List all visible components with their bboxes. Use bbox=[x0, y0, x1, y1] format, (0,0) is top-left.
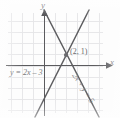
y-axis-label: y bbox=[41, 1, 45, 10]
coordinate-graph-figure: y x (2, 1) y = 2x – 3 2x + y = 5 bbox=[0, 0, 120, 118]
intersection-point-marker bbox=[64, 53, 68, 57]
x-axis-label: x bbox=[110, 58, 114, 67]
intersection-point-label: (2, 1) bbox=[70, 48, 87, 56]
line-y-equals-2x-minus-3 bbox=[35, 10, 89, 117]
line-label-y-equals-2x-minus-3: y = 2x – 3 bbox=[10, 69, 43, 77]
y-axis bbox=[41, 9, 48, 116]
graph-canvas bbox=[0, 0, 120, 118]
